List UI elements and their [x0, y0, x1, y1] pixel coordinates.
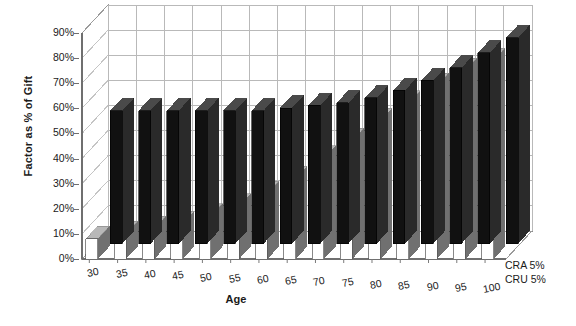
x-axis-tick-label: 95	[454, 280, 468, 294]
x-axis-tick-label: 65	[284, 273, 298, 287]
x-axis-tick-label: 55	[228, 271, 242, 285]
x-axis-tick-label: 60	[256, 272, 270, 286]
x-axis-tick-labels: 3035404550556065707580859095100	[0, 0, 576, 326]
x-axis-tick-label: 70	[312, 274, 326, 288]
x-axis-tick-label: 85	[397, 278, 411, 292]
x-axis-tick-label: 75	[341, 275, 355, 289]
x-axis-tick-label: 35	[114, 266, 128, 280]
x-axis-title: Age	[190, 293, 282, 305]
x-axis-tick-label: 40	[143, 267, 157, 281]
legend-entry-cru: CRU 5%	[505, 272, 546, 286]
legend-entry-cra: CRA 5%	[505, 258, 546, 272]
x-axis-tick-label: 90	[425, 279, 439, 293]
x-axis-tick-label: 45	[171, 268, 185, 282]
x-axis-tick-label: 50	[199, 269, 213, 283]
x-axis-tick-label: 100	[482, 280, 501, 295]
x-axis-tick-label: 30	[86, 265, 100, 279]
chart-canvas: Factor as % of Gift 90%80%70%60%50%40%30…	[0, 0, 576, 326]
chart-legend: CRA 5% CRU 5%	[505, 258, 546, 286]
x-axis-tick-label: 80	[369, 276, 383, 290]
